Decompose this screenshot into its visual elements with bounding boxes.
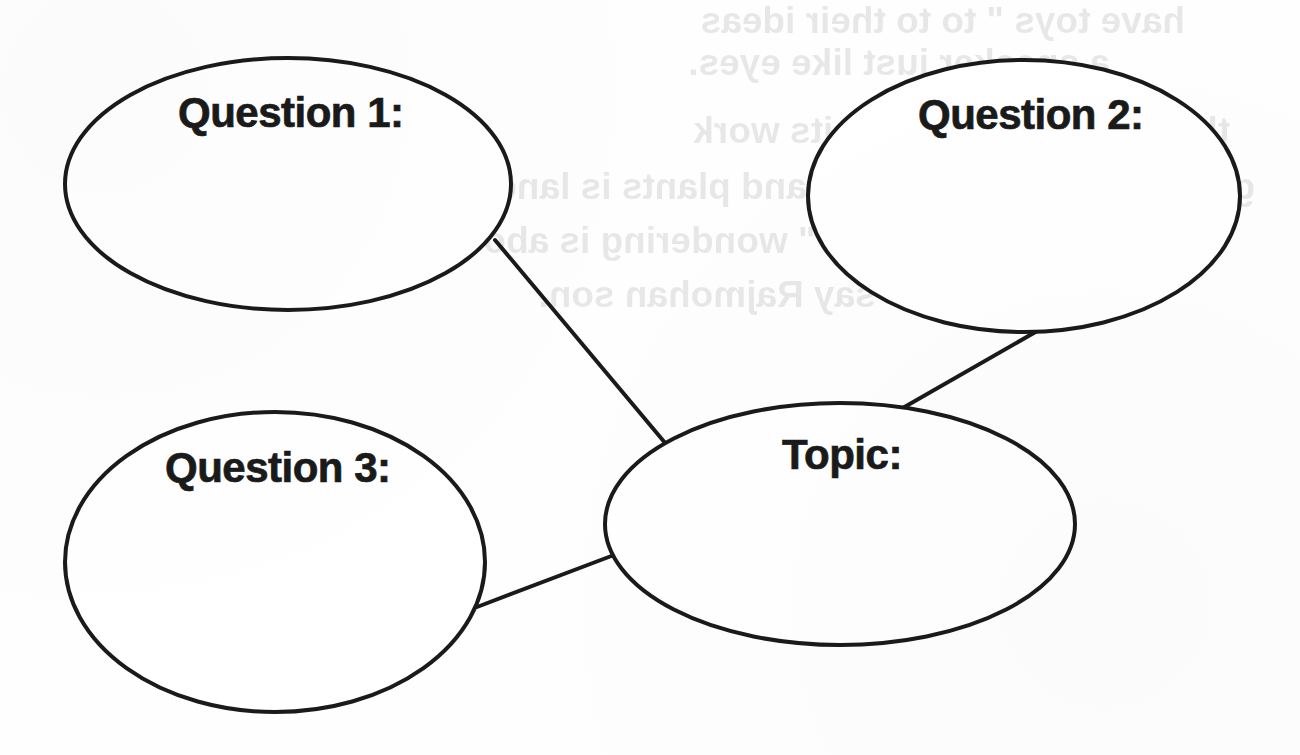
bubble-label-question-2: Question 2: — [918, 94, 1144, 136]
bubble-label-question-1: Question 1: — [178, 92, 404, 134]
bubble-label-topic: Topic: — [782, 434, 902, 476]
connector-question1-topic — [495, 240, 666, 444]
connector-question2-topic — [901, 330, 1039, 409]
bubble-label-question-3: Question 3: — [165, 447, 391, 489]
connector-question3-topic — [477, 555, 614, 607]
worksheet-page: have toys " to to their ideas a speaker … — [0, 0, 1300, 755]
